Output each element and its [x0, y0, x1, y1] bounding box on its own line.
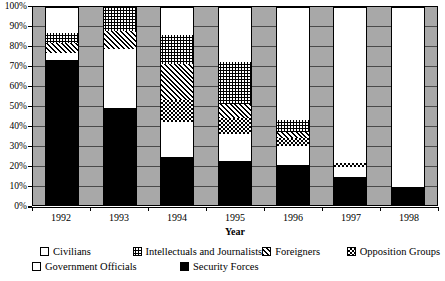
- y-axis-tick-label: 40%: [10, 122, 27, 131]
- bar-segment-civilians[interactable]: [160, 7, 194, 35]
- x-axis-tick-mark: [148, 207, 149, 211]
- bar-segment-intellectuals-and-journalists[interactable]: [103, 7, 137, 31]
- bar-segment-opposition-groups[interactable]: [276, 138, 310, 146]
- x-axis-tick-mark: [206, 207, 207, 211]
- y-axis-tick-label: 90%: [10, 22, 27, 31]
- swatch-opposition-icon: [347, 247, 356, 256]
- bar-segment-government-officials[interactable]: [333, 167, 367, 177]
- bar-segment-foreigners[interactable]: [103, 31, 137, 49]
- x-axis-tick-mark: [380, 207, 381, 211]
- bar-segment-intellectuals-and-journalists[interactable]: [276, 120, 310, 132]
- bar-column-1997[interactable]: [333, 7, 367, 205]
- y-axis-tick-label: 20%: [10, 162, 27, 171]
- x-axis-labels: 1992199319941995199619971998: [32, 212, 438, 224]
- y-axis-tick-label: 0%: [14, 202, 27, 211]
- bar-segment-security-forces[interactable]: [218, 161, 252, 205]
- bar-segment-opposition-groups[interactable]: [160, 100, 194, 122]
- legend-item-foreigners[interactable]: Foreigners: [262, 246, 347, 258]
- plot-wrapper: [32, 6, 438, 206]
- y-axis-tick-label: 30%: [10, 142, 27, 151]
- bar-segment-civilians[interactable]: [45, 7, 79, 33]
- bar-segment-foreigners[interactable]: [45, 43, 79, 53]
- bar-segment-foreigners[interactable]: [218, 104, 252, 118]
- bar-segment-security-forces[interactable]: [391, 187, 425, 205]
- swatch-civilians-icon: [40, 247, 49, 256]
- bar-segment-opposition-groups[interactable]: [218, 118, 252, 134]
- legend-item-government-officials[interactable]: Government Officials: [28, 261, 180, 273]
- bar-column-1995[interactable]: [218, 7, 252, 205]
- bar-segment-government-officials[interactable]: [160, 122, 194, 158]
- bar-segment-security-forces[interactable]: [333, 177, 367, 205]
- x-axis-label-1992: 1992: [44, 212, 78, 224]
- legend-item-civilians[interactable]: Civilians: [28, 246, 133, 258]
- bar-segment-security-forces[interactable]: [45, 60, 79, 205]
- bar-column-1994[interactable]: [160, 7, 194, 205]
- bar-segment-intellectuals-and-journalists[interactable]: [218, 62, 252, 104]
- bar-segment-foreigners[interactable]: [160, 64, 194, 100]
- y-axis-tick-label: 70%: [10, 62, 27, 71]
- swatch-foreigners-icon: [262, 247, 271, 256]
- y-axis-tick-label: 10%: [10, 182, 27, 191]
- legend: Civilians Intellectuals and Journalists …: [28, 244, 440, 274]
- x-axis-tick-mark: [264, 207, 265, 211]
- bar-segment-intellectuals-and-journalists[interactable]: [160, 35, 194, 65]
- plot-area: [32, 6, 438, 206]
- x-axis-label-1998: 1998: [392, 212, 426, 224]
- bar-segment-government-officials[interactable]: [45, 53, 79, 61]
- legend-label-civilians: Civilians: [53, 246, 91, 258]
- x-axis-label-1995: 1995: [218, 212, 252, 224]
- y-axis: 100%90%80%70%60%50%40%30%20%10%0%: [0, 0, 32, 212]
- y-axis-tick-label: 60%: [10, 82, 27, 91]
- x-axis-tick-mark: [322, 207, 323, 211]
- legend-label-opposition: Opposition Groups: [360, 246, 440, 258]
- y-axis-tick-label: 80%: [10, 42, 27, 51]
- x-axis-tick-mark: [90, 207, 91, 211]
- bar-segment-civilians[interactable]: [391, 7, 425, 187]
- bar-segment-security-forces[interactable]: [276, 165, 310, 205]
- legend-row-1: Civilians Intellectuals and Journalists …: [28, 244, 440, 259]
- bar-segment-security-forces[interactable]: [103, 108, 137, 205]
- swatch-intellectuals-icon: [133, 247, 142, 256]
- legend-item-intellectuals[interactable]: Intellectuals and Journalists: [133, 246, 263, 258]
- bar-column-1992[interactable]: [45, 7, 79, 205]
- bar-column-1998[interactable]: [391, 7, 425, 205]
- x-axis-label-1994: 1994: [160, 212, 194, 224]
- bar-segment-intellectuals-and-journalists[interactable]: [45, 33, 79, 43]
- bar-segment-government-officials[interactable]: [103, 49, 137, 108]
- bar-column-1993[interactable]: [103, 7, 137, 205]
- x-axis-label-1997: 1997: [334, 212, 368, 224]
- stacked-bar-chart: 100%90%80%70%60%50%40%30%20%10%0% 199219…: [0, 0, 445, 281]
- swatch-security-forces-icon: [180, 262, 189, 271]
- x-tick-marks: [32, 207, 438, 211]
- x-axis-label-1996: 1996: [276, 212, 310, 224]
- swatch-government-officials-icon: [32, 262, 41, 271]
- legend-item-opposition[interactable]: Opposition Groups: [347, 246, 440, 258]
- legend-label-foreigners: Foreigners: [275, 246, 320, 258]
- x-axis-tick-mark: [32, 207, 33, 211]
- legend-label-security-forces: Security Forces: [193, 261, 259, 273]
- bar-segment-civilians[interactable]: [218, 7, 252, 62]
- bar-segment-security-forces[interactable]: [160, 157, 194, 205]
- y-axis-tick-label: 100%: [5, 2, 27, 11]
- bar-segment-civilians[interactable]: [333, 7, 367, 163]
- legend-label-intellectuals: Intellectuals and Journalists: [146, 246, 263, 258]
- x-axis-tick-mark: [438, 207, 439, 211]
- bar-segment-government-officials[interactable]: [276, 146, 310, 166]
- y-axis-tick-label: 50%: [10, 102, 27, 111]
- x-axis-label-1993: 1993: [102, 212, 136, 224]
- bar-group: [33, 7, 437, 205]
- legend-item-security-forces[interactable]: Security Forces: [180, 261, 259, 273]
- x-axis-title: Year: [32, 226, 438, 237]
- legend-label-government-officials: Government Officials: [45, 261, 137, 273]
- bar-column-1996[interactable]: [276, 7, 310, 205]
- bar-segment-civilians[interactable]: [276, 7, 310, 120]
- bar-segment-government-officials[interactable]: [218, 134, 252, 162]
- legend-row-2: Government Officials Security Forces: [28, 259, 440, 274]
